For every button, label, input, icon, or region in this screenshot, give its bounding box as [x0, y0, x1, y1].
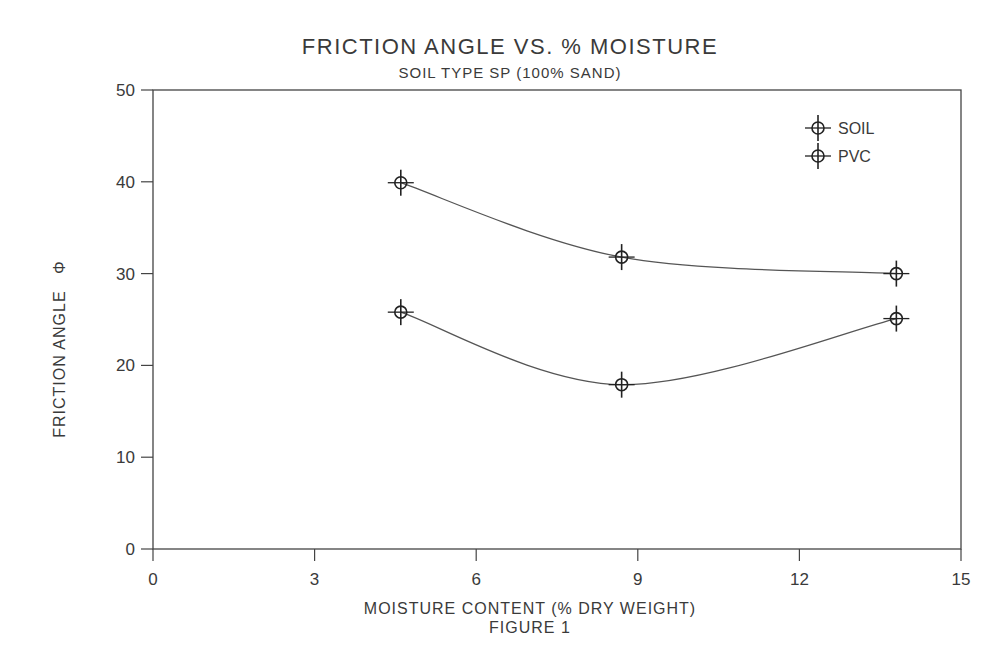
plot-area: 0102030405003691215SOILPVC [0, 0, 997, 664]
legend-label-soil: SOIL [838, 120, 875, 137]
x-tick-label: 6 [471, 570, 480, 589]
x-tick-label: 9 [633, 570, 642, 589]
y-tick-label: 40 [116, 173, 135, 192]
x-tick-label: 15 [952, 570, 971, 589]
legend-label-pvc: PVC [838, 148, 871, 165]
y-tick-label: 10 [116, 448, 135, 467]
pvc-series-line [401, 312, 897, 385]
y-tick-label: 0 [126, 540, 135, 559]
x-tick-label: 12 [790, 570, 809, 589]
y-tick-label: 20 [116, 356, 135, 375]
soil-series-line [401, 183, 897, 274]
y-tick-label: 30 [116, 265, 135, 284]
x-tick-label: 0 [148, 570, 157, 589]
y-tick-label: 50 [116, 81, 135, 100]
x-tick-label: 3 [310, 570, 319, 589]
